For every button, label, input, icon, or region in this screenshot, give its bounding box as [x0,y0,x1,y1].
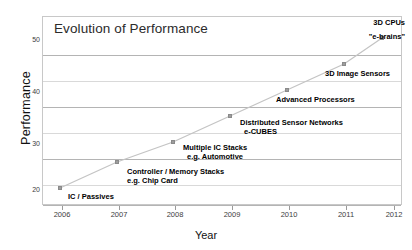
annotation-line: Advanced Processors [276,95,355,104]
x-tick-label-2007: 2007 [99,210,139,219]
annotation-line: Controller / Memory Stacks [127,167,224,176]
x-axis-title: Year [0,229,412,241]
chart-container: Performance Evolution of Performance 50 … [0,0,412,250]
x-tick-label-2010: 2010 [269,210,309,219]
data-point-2006 [58,186,62,190]
data-point-2010 [285,88,289,92]
x-tick-label-2012: 2012 [374,210,412,219]
x-tick-label-2008: 2008 [155,210,195,219]
data-point-2007 [115,160,119,164]
annotation-line: 3D CPUs [307,18,405,27]
y-axis-title: Performance [19,38,33,178]
annotation-controller-memory-stacks: Controller / Memory Stacks e.g. Chip Car… [127,167,224,185]
data-point-2009 [228,114,232,118]
annotation-line: e.g. Automotive [187,152,247,161]
x-tick-label-2009: 2009 [212,210,252,219]
annotation-distributed-sensor-networks: Distributed Sensor Networks e-CUBES [240,118,343,136]
annotation-multiple-ic-stacks: Multiple IC Stacks e.g. Automotive [183,143,247,161]
gridline-20 [43,205,401,206]
annotation-3d-cpus: 3D CPUs "e-brains" [307,18,405,41]
annotation-line: Distributed Sensor Networks [240,118,343,127]
data-point-2008 [171,140,175,144]
annotation-line: "e-brains" [307,32,405,41]
annotation-line: 3D Image Sensors [325,69,390,78]
annotation-3d-image-sensors: 3D Image Sensors [325,69,390,78]
annotation-line: IC / Passives [68,192,114,201]
data-point-2011 [342,62,346,66]
x-tick-label-2006: 2006 [42,210,82,219]
x-tick-label-2011: 2011 [326,210,366,219]
annotation-ic-passives: IC / Passives [68,192,114,201]
annotation-line: e-CUBES [244,127,343,136]
annotation-advanced-processors: Advanced Processors [276,95,355,104]
y-tick-label-20: 20 [22,186,40,193]
annotation-line: e.g. Chip Card [127,176,224,185]
annotation-line: Multiple IC Stacks [183,143,247,152]
